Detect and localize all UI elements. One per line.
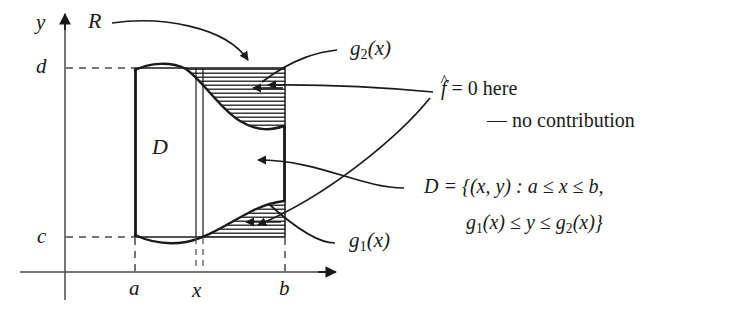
tick-label-x: x	[192, 280, 201, 301]
annotation-zero-contribution-line1: ^f = 0 here	[441, 78, 517, 98]
region-label-D: D	[152, 136, 168, 158]
y-axis-label: y	[36, 12, 45, 33]
annotation-set-definition-line1: D = {(x, y) : a ≤ x ≤ b,	[424, 176, 604, 196]
curve-label-g2: g2(x)	[350, 38, 391, 61]
set-line2-rest: (x) ≤ y ≤ g	[483, 211, 566, 233]
curve-label-g1: g1(x)	[349, 230, 390, 253]
tick-label-a: a	[129, 278, 140, 299]
g1-subscript: 1	[360, 238, 367, 254]
set-g1-sub: 1	[476, 221, 483, 236]
rectangle-label-R: R	[88, 10, 101, 32]
g2-base: g	[350, 36, 361, 60]
g1-arg: (x)	[367, 228, 390, 252]
tick-label-c: c	[37, 226, 46, 247]
annotation-zero-contribution-line2: — no contribution	[487, 110, 635, 130]
leader-fhat-upper	[268, 85, 433, 92]
set-g1-base: g	[466, 211, 476, 233]
g2-subscript: 2	[361, 46, 368, 62]
annotation-set-definition-line2: g1(x) ≤ y ≤ g2(x)}	[466, 212, 603, 235]
set-D: D	[424, 175, 438, 197]
set-line2-tail: (x)}	[573, 211, 603, 233]
vertical-slice-at-x	[196, 68, 203, 237]
tick-label-d: d	[36, 56, 47, 77]
g2-arg: (x)	[368, 36, 391, 60]
tick-label-b: b	[279, 278, 290, 299]
set-line1-rest: = {(x, y) : a ≤ x ≤ b,	[438, 175, 603, 197]
hat-accent: ^	[441, 73, 449, 89]
fhat-rest: = 0 here	[447, 77, 518, 99]
g1-base: g	[349, 228, 360, 252]
leader-R	[112, 21, 248, 60]
set-g2-sub: 2	[566, 221, 573, 236]
leader-D-set	[258, 160, 404, 188]
